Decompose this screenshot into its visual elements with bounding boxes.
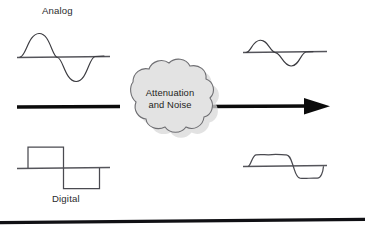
arrow-head-icon [304,98,330,115]
diagram-canvas: Analog Digital Attenuation and Noise [0,0,365,234]
digital-label: Digital [52,193,80,204]
input-digital-waveform [17,147,110,189]
input-analog-waveform [17,33,110,81]
bottom-divider [0,219,365,222]
output-analog-waveform [243,40,327,66]
output-digital-waveform [243,154,327,178]
cloud-label-line2: and Noise [148,99,191,110]
output-analog-baseline [243,52,327,53]
arrow-line-left [17,107,120,108]
arrow-line-right [208,106,312,107]
attenuation-noise-diagram: Analog Digital Attenuation and Noise [0,0,365,234]
attenuation-noise-cloud: Attenuation and Noise [131,59,219,138]
analog-label: Analog [42,5,73,16]
output-digital-baseline [243,166,327,167]
cloud-label-line1: Attenuation [146,87,195,98]
